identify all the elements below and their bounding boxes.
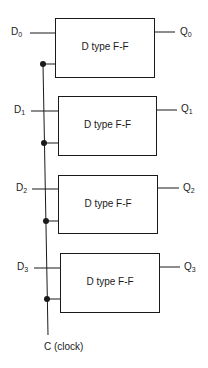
junction-dot-1 (41, 140, 47, 146)
flipflop-label-2: D type F-F (58, 198, 158, 209)
input-label-d1: D1 (14, 104, 25, 116)
output-label-q3: Q3 (184, 261, 196, 273)
input-label-d3: D3 (17, 261, 28, 273)
junction-dot-3 (44, 296, 50, 302)
flipflop-label-0: D type F-F (55, 41, 155, 52)
flipflop-label-3: D type F-F (60, 276, 160, 287)
output-label-q1: Q1 (181, 103, 193, 115)
output-label-q0: Q0 (180, 26, 192, 38)
junction-dot-0 (40, 61, 46, 67)
clock-label: C (clock) (44, 341, 83, 352)
circuit-diagram (0, 0, 208, 368)
flipflop-label-1: D type F-F (58, 119, 157, 130)
output-label-q2: Q2 (183, 182, 195, 194)
input-label-d0: D0 (11, 26, 22, 38)
clock-bus (43, 64, 48, 335)
input-label-d2: D2 (16, 182, 27, 194)
junction-dot-2 (43, 218, 49, 224)
